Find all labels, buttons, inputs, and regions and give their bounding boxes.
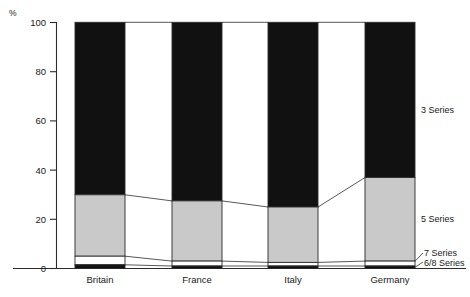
bar-segment-britain-7-series[interactable] [75, 256, 125, 265]
y-tick-label-100: 100 [30, 17, 46, 28]
series-connector-lines [125, 22, 365, 266]
x-axis-category-labels: Britain France Italy Germany [87, 274, 410, 285]
bar-segment-italy-6-8-series[interactable] [268, 266, 318, 269]
bar-segment-germany-6-8-series[interactable] [365, 266, 415, 269]
bar-segment-italy-5-series[interactable] [268, 207, 318, 262]
stacked-bar-chart: % 100 80 60 40 20 0 [0, 0, 470, 297]
y-tick-label-20: 20 [35, 214, 46, 225]
y-axis-unit-label: % [9, 8, 17, 18]
bar-segment-france-5-series[interactable] [172, 201, 222, 261]
bar-segment-britain-6-8-series[interactable] [75, 265, 125, 269]
bar-segment-france-3-series[interactable] [172, 22, 222, 201]
legend-label-5-series: 5 Series [421, 214, 455, 224]
bar-segment-france-6-8-series[interactable] [172, 266, 222, 269]
bar-segment-germany-7-series[interactable] [365, 261, 415, 266]
connector-5series-france-italy [222, 201, 268, 207]
category-label-france: France [182, 274, 212, 285]
bar-group-italy[interactable] [268, 22, 318, 268]
connector-68series-britain-france [125, 265, 172, 266]
legend-label-6-8-series: 6/8 Series [424, 258, 465, 268]
bar-group-france[interactable] [172, 22, 222, 268]
legend-label-3-series: 3 Series [421, 105, 455, 115]
bar-segment-germany-5-series[interactable] [365, 178, 415, 262]
category-label-britain: Britain [87, 274, 114, 285]
connector-5series-britain-france [125, 195, 172, 201]
legend: 3 Series 5 Series 7 Series 6/8 Series [415, 105, 465, 268]
bar-segment-france-7-series[interactable] [172, 261, 222, 266]
y-tick-label-80: 80 [35, 66, 46, 77]
connector-5series-italy-germany [318, 178, 365, 208]
category-label-germany: Germany [370, 274, 409, 285]
bar-segment-britain-5-series[interactable] [75, 195, 125, 256]
connector-7series-italy-germany [318, 261, 365, 262]
y-tick-label-40: 40 [35, 165, 46, 176]
connector-7series-france-italy [222, 261, 268, 262]
bar-group-germany[interactable] [365, 22, 415, 268]
y-axis-ticks [50, 23, 57, 269]
bar-segment-italy-7-series[interactable] [268, 262, 318, 266]
chart-canvas: % 100 80 60 40 20 0 [0, 0, 470, 297]
legend-leader-7-series [415, 253, 423, 261]
legend-label-7-series: 7 Series [424, 248, 458, 258]
y-tick-label-0: 0 [41, 263, 46, 274]
category-label-italy: Italy [284, 274, 302, 285]
bar-segment-britain-3-series[interactable] [75, 22, 125, 195]
bar-segment-italy-3-series[interactable] [268, 22, 318, 207]
y-axis-tick-labels: 100 80 60 40 20 0 [30, 17, 46, 274]
bar-segment-germany-3-series[interactable] [365, 22, 415, 177]
connector-7series-britain-france [125, 256, 172, 261]
y-tick-label-60: 60 [35, 115, 46, 126]
legend-leader-6-8-series [415, 262, 423, 267]
bar-group-britain[interactable] [75, 22, 125, 268]
